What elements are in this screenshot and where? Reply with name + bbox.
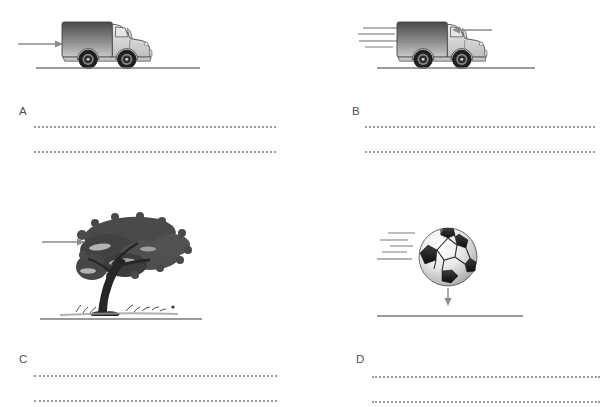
answer-line-d-1[interactable] <box>372 376 600 378</box>
answer-line-a-1[interactable] <box>34 126 276 128</box>
force-arrow-down-icon <box>445 288 452 306</box>
figure-windblown-tree <box>30 205 230 330</box>
panel-label-a: A <box>19 105 27 117</box>
answer-line-b-2[interactable] <box>365 151 595 153</box>
soccer-ball-illustration <box>419 228 477 286</box>
answer-line-b-1[interactable] <box>365 126 595 128</box>
worksheet-page: A B C D <box>0 0 616 407</box>
tree-illustration <box>60 212 192 316</box>
force-arrow-left-icon <box>452 27 492 34</box>
answer-line-d-2[interactable] <box>372 401 600 403</box>
grass-icon <box>76 305 166 313</box>
figure-falling-ball <box>360 210 540 322</box>
answer-line-c-2[interactable] <box>34 400 277 402</box>
panel-label-b: B <box>352 105 360 117</box>
panel-label-c: C <box>19 353 28 365</box>
figure-truck-pushed <box>0 10 308 100</box>
answer-line-a-2[interactable] <box>34 151 276 153</box>
figure-truck-braking <box>340 10 616 100</box>
motion-lines-icon <box>358 28 397 47</box>
force-arrow-right-icon <box>42 239 85 246</box>
force-arrow-right-icon <box>18 41 63 48</box>
answer-line-c-1[interactable] <box>34 375 277 377</box>
panel-label-d: D <box>356 353 365 365</box>
truck-illustration <box>62 22 152 69</box>
truck-illustration <box>397 22 487 69</box>
motion-lines-icon <box>377 233 415 259</box>
